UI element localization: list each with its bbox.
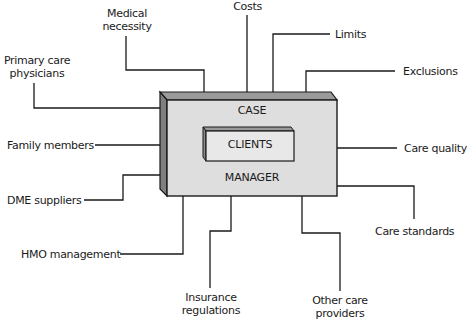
node-hmo-management: HMO management bbox=[21, 248, 120, 261]
clients-label: CLIENTS bbox=[206, 138, 294, 151]
node-insurance-regulations: Insurance regulations bbox=[180, 291, 242, 317]
node-dme-suppliers: DME suppliers bbox=[7, 194, 81, 207]
node-other-care-providers: Other care providers bbox=[305, 294, 375, 320]
connector-lines bbox=[0, 0, 467, 321]
node-exclusions: Exclusions bbox=[403, 65, 458, 78]
node-family-members: Family members bbox=[7, 139, 94, 152]
node-limits: Limits bbox=[335, 28, 366, 41]
case-label: CASE bbox=[167, 104, 337, 117]
manager-label: MANAGER bbox=[167, 171, 337, 184]
node-care-quality: Care quality bbox=[404, 142, 467, 155]
node-label-line1: Medical bbox=[96, 7, 158, 20]
node-label-line1: Other care bbox=[305, 294, 375, 307]
node-primary-care-physicians: Primary care physicians bbox=[1, 54, 73, 80]
node-costs: Costs bbox=[225, 0, 270, 13]
node-label-line2: physicians bbox=[1, 67, 73, 80]
node-label-line1: Insurance bbox=[180, 291, 242, 304]
node-label-line2: regulations bbox=[180, 304, 242, 317]
node-care-standards: Care standards bbox=[375, 225, 454, 238]
node-label-line1: Primary care bbox=[1, 54, 73, 67]
node-medical-necessity: Medical necessity bbox=[96, 7, 158, 33]
node-label-line2: necessity bbox=[96, 20, 158, 33]
node-label-line2: providers bbox=[305, 307, 375, 320]
